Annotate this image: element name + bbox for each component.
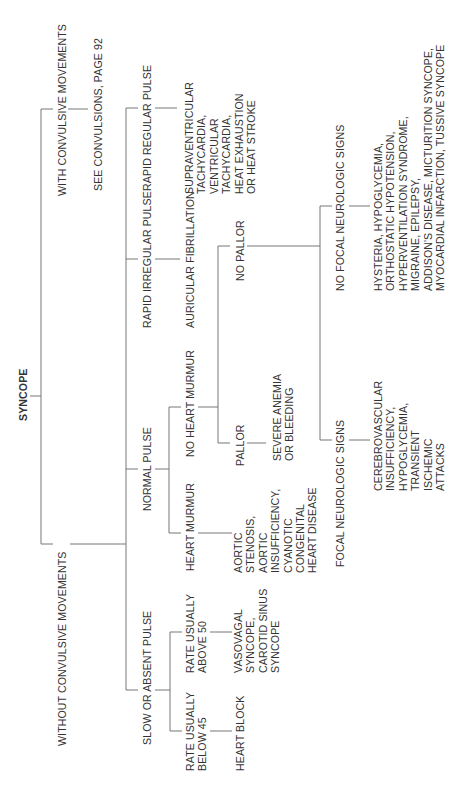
result-vasovagal: VASOVAGAL SYNCOPE, CAROTID SINUS SYNCOPE	[232, 589, 282, 673]
node-heart-murmur: HEART MURMUR	[184, 483, 196, 571]
node-rapid-irregular-pulse: RAPID IRREGULAR PULSE	[141, 191, 153, 328]
result-severe-anemia: SEVERE ANEMIA OR BLEEDING	[271, 374, 296, 461]
result-hysteria-list: HYSTERIA, HYPOGLYCEMIA, ORTHOSTATIC HYPO…	[372, 45, 446, 291]
result-heart-block: HEART BLOCK	[234, 696, 246, 771]
node-pallor: PALLOR	[234, 424, 246, 466]
title-syncope: SYNCOPE	[17, 368, 29, 421]
node-rate-below-45: RATE USUALLY BELOW 45	[184, 692, 209, 771]
result-cerebrovascular: CEREBROVASCULAR INSUFFICIENCY, HYPOGLYCE…	[372, 381, 446, 491]
result-aortic-stenosis: AORTIC STENOSIS, AORTIC INSUFFICIENCY, C…	[232, 487, 319, 573]
result-auricular-fibrillation: AURICULAR FIBRILLATION	[184, 191, 196, 328]
node-slow-absent-pulse: SLOW OR ABSENT PULSE	[141, 611, 153, 745]
node-normal-pulse: NORMAL PULSE	[141, 427, 153, 511]
node-no-focal-neurologic-signs: NO FOCAL NEUROLOGIC SIGNS	[334, 125, 346, 291]
node-with-convulsive: WITH CONVULSIVE MOVEMENTS	[56, 24, 68, 196]
result-supraventricular: SUPRAVENTRICULAR TACHYCARDIA, VENTRICULA…	[183, 82, 257, 194]
node-no-heart-murmur: NO HEART MURMUR	[184, 350, 196, 457]
node-without-convulsive: WITHOUT CONVULSIVE MOVEMENTS	[56, 552, 68, 747]
node-rate-above-50: RATE USUALLY ABOVE 50	[184, 594, 209, 673]
node-rapid-regular-pulse: RAPID REGULAR PULSE	[141, 65, 153, 191]
result-see-convulsions: SEE CONVULSIONS, PAGE 92	[92, 38, 104, 191]
node-no-pallor: NO PALLOR	[234, 220, 246, 281]
node-focal-neurologic-signs: FOCAL NEUROLOGIC SIGNS	[334, 420, 346, 567]
